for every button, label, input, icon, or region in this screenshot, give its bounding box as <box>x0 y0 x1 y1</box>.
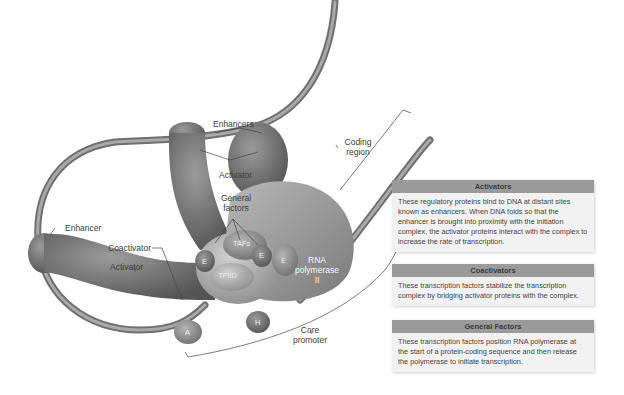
label-enhancers: Enhancers <box>213 119 254 129</box>
label-e-mid: E <box>259 251 264 260</box>
label-activator-top: Activator <box>219 170 252 180</box>
info-box-activators: Activators These regulatory proteins bin… <box>392 180 594 252</box>
label-general-factors: General factors <box>216 193 256 213</box>
info-box-text: These transcription factors stabilize th… <box>392 277 594 306</box>
info-box-coactivators: Coactivators These transcription factors… <box>392 264 594 306</box>
label-activator-left: Activator <box>110 262 143 272</box>
label-e-right: E <box>281 256 286 265</box>
label-rna-polymerase: RNA polymerase II <box>292 255 342 285</box>
label-enhancer: Enhancer <box>65 223 101 233</box>
label-e-left: E <box>202 257 207 266</box>
info-box-general-factors: General Factors These transcription fact… <box>392 320 594 372</box>
label-coding-region: Coding region <box>340 137 376 157</box>
label-core-promoter: Core promoter <box>290 325 330 345</box>
info-box-title: General Factors <box>392 320 594 333</box>
label-h: H <box>255 318 260 327</box>
info-box-text: These transcription factors position RNA… <box>392 333 594 372</box>
info-box-title: Coactivators <box>392 264 594 277</box>
activator-top-left-protein <box>169 122 235 250</box>
label-a: A <box>185 328 190 337</box>
label-tafs: TAFs <box>233 239 250 248</box>
label-coactivator: Coactivator <box>108 243 151 253</box>
label-tfiid: TFIID <box>218 271 237 280</box>
info-box-title: Activators <box>392 180 594 193</box>
info-box-text: These regulatory proteins bind to DNA at… <box>392 193 594 252</box>
